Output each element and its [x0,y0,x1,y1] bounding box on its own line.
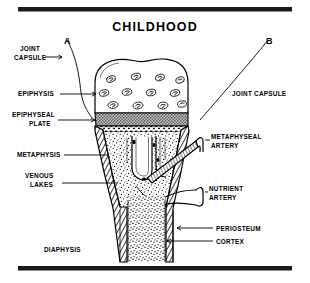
epiphyseal-plate-band [95,113,188,132]
anatomical-figure-childhood-bone: CHILDHOOD [0,0,310,283]
label-periosteum: PERIOSTEUM [216,225,261,232]
label-joint-capsule-left-line1: JOINT [20,45,40,52]
label-joint-capsule-right: JOINT CAPSULE [232,90,287,97]
top-rule [18,7,292,12]
label-nutrient-artery-line1: NUTRIENT [209,185,243,192]
label-epiphyseal-plate-line2: PLATE [29,120,51,127]
label-venous-lakes-line1: VENOUS [25,172,54,179]
bone-diagram-canvas: CHILDHOOD [0,0,310,283]
callout-marker-a: A [64,36,71,46]
label-nutrient-artery-line2: ARTERY [209,194,237,201]
leader-joint-capsule-left [45,40,92,118]
label-joint-capsule-left-line2: CAPSULE [14,54,47,61]
epiphysis-cells [99,72,187,109]
label-venous-lakes-line2: LAKES [30,181,53,188]
label-metaphyseal-artery-line1: METAPHYSEAL [211,133,262,140]
diaphysis-region [120,196,173,262]
callout-marker-b: B [266,36,273,46]
label-cortex: CORTEX [216,238,245,245]
leader-joint-capsule-right [200,40,268,120]
label-diaphysis: DIAPHYSIS [44,246,81,253]
leader-epiphyseal-plate [58,118,95,122]
leader-periosteum [177,226,213,230]
page-title: CHILDHOOD [112,20,198,34]
leader-epiphysis [60,92,96,96]
label-metaphysis: METAPHYSIS [17,151,61,158]
epiphysis-region [95,59,188,113]
label-epiphyseal-plate-line1: EPIPHYSEAL [12,111,55,118]
label-metaphyseal-artery-line2: ARTERY [211,142,239,149]
bottom-rule [18,266,292,271]
leader-cortex [167,239,213,243]
label-epiphysis: EPIPHYSIS [18,90,54,97]
